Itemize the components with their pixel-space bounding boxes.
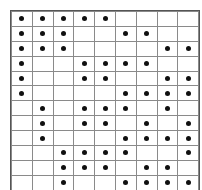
dot-marker-icon xyxy=(144,121,149,126)
grid-cell-empty xyxy=(74,26,95,41)
dot-marker-icon xyxy=(19,16,24,21)
dot-marker-icon xyxy=(40,46,45,51)
dot-grid-figure xyxy=(0,0,202,190)
grid-cell-empty xyxy=(178,26,199,41)
dot-marker-icon xyxy=(165,91,170,96)
grid-cell-filled xyxy=(12,41,33,56)
dot-marker-icon xyxy=(19,61,24,66)
dot-marker-icon xyxy=(186,91,191,96)
grid-cell-filled xyxy=(178,131,199,146)
grid-cell-empty xyxy=(53,101,74,116)
grid-cell-filled xyxy=(12,26,33,41)
dot-marker-icon xyxy=(40,106,45,111)
grid-cell-empty xyxy=(115,41,136,56)
dot-marker-icon xyxy=(165,76,170,81)
dot-marker-icon xyxy=(40,31,45,36)
grid-row xyxy=(12,175,199,190)
grid-cell-filled xyxy=(74,116,95,131)
grid-cell-empty xyxy=(115,116,136,131)
grid-cell-filled xyxy=(74,12,95,27)
grid-cell-empty xyxy=(32,56,53,71)
grid-cell-filled xyxy=(95,71,116,86)
dot-marker-icon xyxy=(103,16,108,21)
dot-marker-icon xyxy=(165,106,170,111)
dot-marker-icon xyxy=(144,61,149,66)
dot-marker-icon xyxy=(103,61,108,66)
dot-marker-icon xyxy=(61,31,66,36)
grid-cell-empty xyxy=(157,116,178,131)
grid-cell-empty xyxy=(136,101,157,116)
grid-cell-empty xyxy=(32,146,53,161)
grid-cell-filled xyxy=(53,26,74,41)
dot-marker-icon xyxy=(82,121,87,126)
dot-marker-icon xyxy=(186,121,191,126)
grid-cell-empty xyxy=(157,12,178,27)
dot-marker-icon xyxy=(40,136,45,141)
grid-cell-empty xyxy=(178,12,199,27)
dot-marker-icon xyxy=(82,150,87,155)
grid-cell-empty xyxy=(95,86,116,101)
dot-marker-icon xyxy=(144,91,149,96)
dot-marker-icon xyxy=(144,31,149,36)
grid-row xyxy=(12,71,199,86)
grid-cell-filled xyxy=(136,116,157,131)
grid-cell-filled xyxy=(178,86,199,101)
dot-marker-icon xyxy=(61,16,66,21)
dot-marker-icon xyxy=(144,165,149,170)
grid-row xyxy=(12,56,199,71)
grid-cell-empty xyxy=(53,131,74,146)
grid-cell-filled xyxy=(115,131,136,146)
dot-marker-icon xyxy=(19,91,24,96)
grid-cell-empty xyxy=(95,26,116,41)
grid-cell-filled xyxy=(115,86,136,101)
dot-marker-icon xyxy=(144,136,149,141)
grid-cell-filled xyxy=(136,175,157,190)
dot-grid-table xyxy=(11,11,199,190)
dot-marker-icon xyxy=(40,16,45,21)
grid-cell-empty xyxy=(136,41,157,56)
grid-cell-filled xyxy=(12,71,33,86)
grid-cell-empty xyxy=(53,116,74,131)
grid-row xyxy=(12,41,199,56)
dot-marker-icon xyxy=(165,180,170,185)
grid-cell-empty xyxy=(157,56,178,71)
dot-marker-icon xyxy=(165,136,170,141)
grid-cell-filled xyxy=(157,131,178,146)
dot-marker-icon xyxy=(123,91,128,96)
dot-marker-icon xyxy=(82,16,87,21)
grid-cell-empty xyxy=(32,175,53,190)
grid-cell-empty xyxy=(115,71,136,86)
dot-marker-icon xyxy=(19,46,24,51)
grid-row xyxy=(12,160,199,175)
grid-cell-empty xyxy=(32,86,53,101)
grid-cell-filled xyxy=(178,41,199,56)
grid-cell-filled xyxy=(12,56,33,71)
grid-cell-empty xyxy=(32,71,53,86)
grid-cell-empty xyxy=(12,160,33,175)
dot-marker-icon xyxy=(82,106,87,111)
grid-cell-filled xyxy=(32,12,53,27)
grid-cell-filled xyxy=(95,116,116,131)
dot-marker-icon xyxy=(61,150,66,155)
grid-cell-empty xyxy=(95,175,116,190)
grid-cell-filled xyxy=(95,101,116,116)
grid-cell-filled xyxy=(136,86,157,101)
grid-row xyxy=(12,26,199,41)
grid-row xyxy=(12,146,199,161)
grid-cell-filled xyxy=(157,101,178,116)
grid-cell-empty xyxy=(12,131,33,146)
grid-cell-filled xyxy=(115,56,136,71)
grid-cell-filled xyxy=(74,160,95,175)
grid-cell-empty xyxy=(178,56,199,71)
grid-cell-empty xyxy=(157,26,178,41)
grid-cell-empty xyxy=(95,131,116,146)
dot-marker-icon xyxy=(103,106,108,111)
dot-marker-icon xyxy=(165,46,170,51)
dot-marker-icon xyxy=(82,61,87,66)
grid-cell-filled xyxy=(53,146,74,161)
grid-cell-filled xyxy=(74,56,95,71)
dot-marker-icon xyxy=(186,76,191,81)
dot-marker-icon xyxy=(186,150,191,155)
grid-cell-filled xyxy=(53,160,74,175)
grid-cell-filled xyxy=(74,101,95,116)
